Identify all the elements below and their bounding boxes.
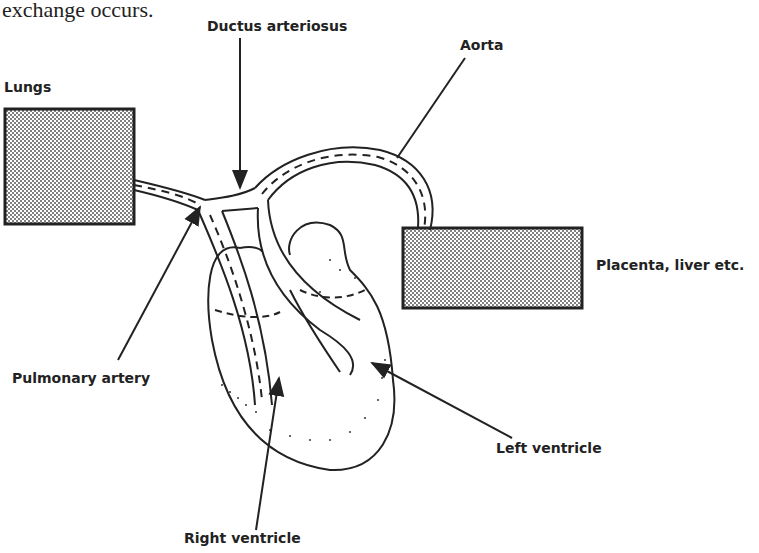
aorta-pointer [397,58,465,158]
label-pulmonary-artery: Pulmonary artery [12,370,150,386]
label-right-ventricle: Right ventricle [184,530,301,546]
fetal-circulation-diagram [0,0,759,553]
ductus-vessel [205,188,255,200]
right-ventricle-pointer [256,378,279,530]
label-ductus-arteriosus: Ductus arteriosus [207,18,347,34]
lungs-box [5,109,134,224]
label-lungs: Lungs [4,79,51,95]
left-ventricle-pointer [372,363,512,438]
label-left-ventricle: Left ventricle [496,440,602,456]
label-aorta: Aorta [460,37,504,53]
label-placenta: Placenta, liver etc. [596,257,744,273]
pulmonary-branch [134,180,205,200]
placenta-box [403,228,582,308]
aorta-vessel [255,147,433,230]
heart-outline [208,223,394,470]
pulmonary-pointer [118,207,200,360]
